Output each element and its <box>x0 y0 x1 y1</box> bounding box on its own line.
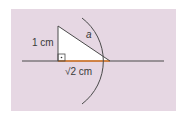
unit: cm <box>76 66 92 77</box>
radical-value: √2 <box>65 66 76 77</box>
vertical-leg-label: 1 cm <box>32 37 54 48</box>
right-angle-dot <box>61 57 63 59</box>
horizontal-leg-label: √2 cm <box>65 66 92 77</box>
hypotenuse-label: a <box>86 29 92 40</box>
diagram-canvas <box>0 0 184 118</box>
